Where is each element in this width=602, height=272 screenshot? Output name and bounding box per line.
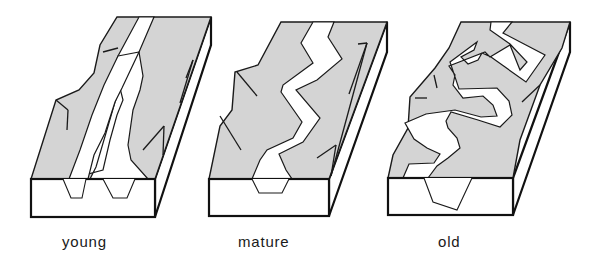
young-front-face xyxy=(31,179,155,217)
old-block xyxy=(388,22,570,215)
mature-channel-section xyxy=(252,179,289,193)
young-block xyxy=(31,17,211,217)
label-old: old xyxy=(438,233,460,250)
valley-stages-diagram xyxy=(0,0,602,272)
mature-block xyxy=(209,22,387,216)
label-young: young xyxy=(62,233,107,250)
label-mature: mature xyxy=(238,233,290,250)
